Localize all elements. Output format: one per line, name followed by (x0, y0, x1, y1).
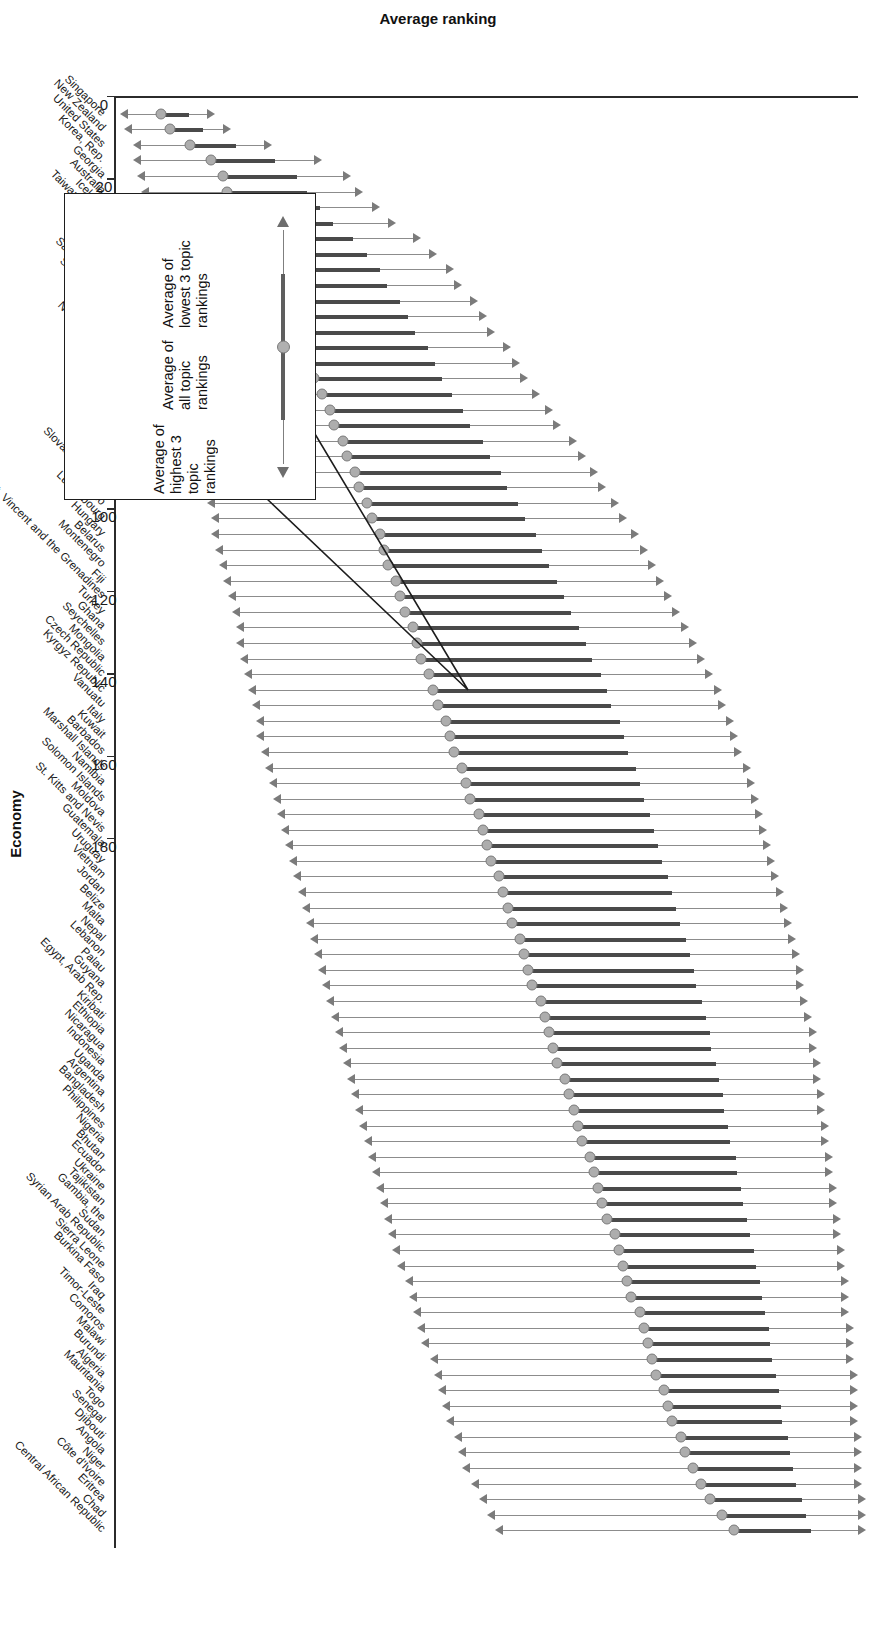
range-best-arrow-icon (351, 1089, 359, 1099)
range-best-arrow-icon (120, 109, 128, 119)
range-worst-arrow-icon (842, 1276, 850, 1286)
mean-marker (535, 996, 546, 1007)
range-best-arrow-icon (368, 1152, 376, 1162)
mean-marker (391, 575, 402, 586)
range-high-tail (754, 1250, 837, 1251)
range-high-tail (387, 285, 454, 286)
range-high-segment (590, 1156, 736, 1160)
range-low-segment (256, 690, 433, 691)
range-high-segment (549, 1031, 710, 1035)
range-low-segment (495, 1515, 722, 1516)
range-worst-arrow-icon (813, 1074, 821, 1084)
range-low-segment (310, 908, 508, 909)
range-high-tail (711, 1048, 808, 1049)
range-high-tail (736, 1157, 825, 1158)
range-low-segment (446, 1390, 664, 1391)
range-worst-arrow-icon (854, 1447, 862, 1457)
range-low-segment (392, 1219, 606, 1220)
range-high-tail (525, 518, 619, 519)
range-best-arrow-icon (331, 1012, 339, 1022)
range-high-tail (380, 269, 446, 270)
mean-marker (341, 451, 352, 462)
range-best-arrow-icon (294, 871, 302, 881)
range-low-segment (219, 518, 372, 519)
range-high-tail (320, 207, 372, 208)
range-high-tail (557, 581, 656, 582)
range-low-segment (293, 845, 487, 846)
range-low-segment (479, 1484, 702, 1485)
range-high-tail (463, 410, 544, 411)
mean-marker (667, 1416, 678, 1427)
range-worst-arrow-icon (854, 1463, 862, 1473)
mean-marker (329, 420, 340, 431)
mean-marker (560, 1073, 571, 1084)
range-worst-arrow-icon (355, 187, 363, 197)
range-low-segment (219, 534, 380, 535)
range-best-arrow-icon (277, 809, 285, 819)
range-worst-arrow-icon (767, 856, 775, 866)
range-best-arrow-icon (495, 1525, 503, 1535)
range-best-arrow-icon (397, 1261, 405, 1271)
range-worst-arrow-icon (734, 747, 742, 757)
range-best-arrow-icon (285, 840, 293, 850)
range-worst-arrow-icon (755, 809, 763, 819)
range-low-segment (244, 643, 417, 644)
range-best-arrow-icon (236, 622, 244, 632)
mean-marker (704, 1494, 715, 1505)
range-best-arrow-icon (372, 1167, 380, 1177)
range-worst-arrow-icon (809, 1043, 817, 1053)
range-high-segment (528, 969, 694, 973)
range-high-tail (628, 752, 735, 753)
range-best-arrow-icon (256, 716, 264, 726)
range-best-arrow-icon (314, 949, 322, 959)
range-high-tail (782, 1421, 849, 1422)
range-high-tail (644, 799, 751, 800)
range-low-segment (405, 1266, 623, 1267)
range-best-arrow-icon (442, 1401, 450, 1411)
range-high-segment (578, 1125, 729, 1129)
range-low-segment (487, 1499, 710, 1500)
mean-marker (407, 622, 418, 633)
range-high-tail (297, 176, 342, 177)
range-best-arrow-icon (124, 124, 132, 134)
range-high-tail (743, 1203, 829, 1204)
range-worst-arrow-icon (730, 731, 738, 741)
range-high-tail (719, 1079, 813, 1080)
range-high-segment (693, 1467, 793, 1471)
range-worst-arrow-icon (264, 140, 272, 150)
range-low-segment (450, 1406, 668, 1407)
range-best-arrow-icon (347, 1074, 355, 1084)
mean-marker (593, 1182, 604, 1193)
mean-marker (552, 1058, 563, 1069)
range-high-tail (542, 550, 639, 551)
range-low-segment (231, 581, 396, 582)
range-low-segment (471, 1468, 694, 1469)
range-high-segment (681, 1436, 788, 1440)
range-low-segment (264, 736, 450, 737)
mean-marker (465, 793, 476, 804)
callout-lowest-label: Average of lowest 3 topic rankings (160, 208, 211, 328)
mean-marker (626, 1291, 637, 1302)
range-high-tail (672, 892, 775, 893)
range-high-segment (512, 922, 681, 926)
range-high-segment (685, 1451, 790, 1455)
range-best-arrow-icon (364, 1136, 372, 1146)
range-high-tail (690, 954, 792, 955)
range-worst-arrow-icon (829, 1183, 837, 1193)
range-high-segment (450, 735, 624, 739)
range-high-segment (359, 486, 507, 490)
range-low-segment (236, 596, 401, 597)
range-best-arrow-icon (298, 887, 306, 897)
range-high-segment (438, 704, 612, 708)
range-high-segment (582, 1140, 730, 1144)
range-high-segment (405, 611, 571, 615)
range-high-tail (435, 363, 512, 364)
range-high-segment (454, 751, 628, 755)
mean-marker (440, 715, 451, 726)
mean-marker (716, 1509, 727, 1520)
range-best-arrow-icon (318, 965, 326, 975)
range-worst-arrow-icon (833, 1229, 841, 1239)
range-high-tail (549, 565, 648, 566)
range-high-segment (190, 144, 236, 148)
mean-marker (416, 653, 427, 664)
